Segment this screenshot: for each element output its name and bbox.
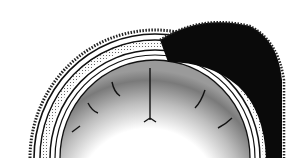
anatomical-illustration — [0, 0, 297, 158]
